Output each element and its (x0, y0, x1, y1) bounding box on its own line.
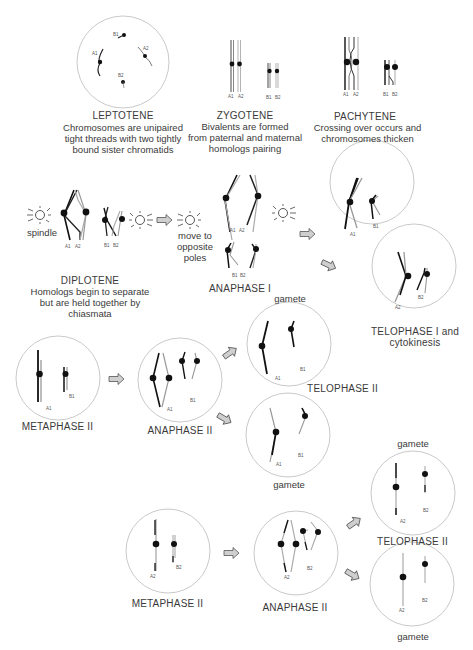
svg-text:A1: A1 (167, 407, 173, 412)
svg-text:A1: A1 (65, 244, 71, 249)
metaphase-2-top-cell: A1 B1 (16, 336, 100, 420)
svg-text:A1: A1 (343, 92, 349, 97)
telophase-2-bottom-title: TELOPHASE II (370, 536, 455, 548)
telophase-2-bottom-gamete-1: A2 B2 (371, 451, 455, 535)
gamete-label: gamete (265, 293, 315, 305)
arrow-icon (343, 566, 361, 583)
telophase-1-title-1: TELOPHASE I and (365, 326, 465, 338)
svg-text:B1: B1 (113, 32, 119, 37)
svg-text:B1: B1 (104, 243, 110, 248)
svg-text:A1: A1 (230, 228, 236, 233)
anaphase-2-top-title: ANAPHASE II (140, 425, 220, 437)
diplotene-title: DIPLOTENE (50, 275, 130, 287)
telophase-2-bottom-gamete-2: A2 B2 (370, 542, 454, 626)
arrow-icon (109, 374, 124, 385)
svg-text:A2: A2 (143, 46, 149, 51)
leptotene-title: LEPTOTENE (70, 110, 176, 122)
telophase-2-top-title: TELOPHASE II (300, 383, 385, 395)
svg-text:B1: B1 (69, 394, 75, 399)
telophase-1-title-2: cytokinesis (375, 337, 455, 349)
move-label-2: opposite (170, 241, 220, 253)
svg-text:A1: A1 (228, 94, 234, 99)
gamete-label: gamete (264, 479, 314, 491)
svg-text:B1: B1 (232, 273, 238, 278)
svg-text:A2: A2 (400, 519, 406, 524)
gamete-label: gamete (388, 631, 438, 643)
svg-text:A2: A2 (353, 92, 359, 97)
svg-text:B2: B2 (240, 273, 246, 278)
move-label-3: poles (175, 252, 215, 264)
svg-text:B2: B2 (418, 295, 424, 300)
zygotene-pairs: A1 A2 B1 B2 (228, 40, 281, 100)
svg-text:A2: A2 (75, 244, 81, 249)
telophase-1-cell-b: A2 B2 (372, 224, 456, 310)
telophase-2-top-gamete-1: A1 B1 (247, 302, 331, 386)
svg-text:A1: A1 (276, 462, 282, 467)
svg-text:B1: B1 (373, 224, 379, 229)
meiosis-diagram: A1 B1 A2 B2 A1 A2 B1 B2 A1 (0, 0, 473, 650)
svg-text:B1: B1 (300, 367, 306, 372)
svg-text:A1: A1 (350, 232, 356, 237)
anaphase-2-top-cell: A1 B1 (138, 338, 222, 422)
leptotene-cell: A1 B1 A2 B2 (77, 16, 169, 108)
metaphase-2-top-title: METAPHASE II (15, 421, 100, 433)
svg-text:A1: A1 (275, 376, 281, 381)
pachytene-title: PACHYTENE (325, 111, 405, 123)
svg-text:B2: B2 (307, 566, 313, 571)
pachytene-desc-2: chromosomes thicken (310, 133, 425, 145)
svg-text:B1: B1 (266, 95, 272, 100)
diplotene-pairs: A1 A2 B1 B2 (27, 190, 172, 249)
zygotene-desc-1: Bivalents are formed (180, 121, 310, 133)
diplotene-desc-1: Homologs begin to separate (20, 286, 160, 298)
svg-text:B2: B2 (113, 243, 119, 248)
svg-text:B1: B1 (298, 453, 304, 458)
svg-text:B2: B2 (422, 598, 428, 603)
svg-text:B2: B2 (118, 73, 124, 78)
arrow-icon (224, 548, 239, 559)
svg-text:A2: A2 (284, 575, 290, 580)
spindle-label: spindle (22, 227, 62, 239)
svg-text:A2: A2 (238, 94, 244, 99)
zygotene-title: ZYGOTENE (200, 110, 290, 122)
diplotene-desc-3: chiasmata (20, 308, 160, 320)
pachytene-pairs: A1 A2 B1 B2 (343, 37, 398, 97)
svg-text:A2: A2 (150, 574, 156, 579)
metaphase-2-bottom-title: METAPHASE II (125, 598, 210, 610)
svg-text:A2: A2 (239, 228, 245, 233)
gamete-label: gamete (388, 438, 438, 450)
svg-text:B2: B2 (423, 508, 429, 513)
diplotene-desc-2: but are held together by (20, 297, 160, 309)
svg-text:B1: B1 (190, 398, 196, 403)
metaphase-2-bottom-cell: A2 B2 (126, 509, 210, 593)
arrow-icon (345, 514, 364, 532)
zygotene-desc-2: from paternal and maternal (180, 132, 310, 144)
svg-text:A2: A2 (399, 608, 405, 613)
svg-text:A1: A1 (46, 406, 52, 411)
anaphase-2-bottom-cell: A2 B2 (254, 511, 338, 595)
svg-text:B2: B2 (392, 92, 398, 97)
svg-text:B1: B1 (383, 92, 389, 97)
leptotene-desc-2: tight threads with two tightly (44, 133, 202, 145)
pachytene-desc-1: Crossing over occurs and (310, 122, 425, 134)
telophase-2-top-gamete-2: A1 B1 (246, 393, 330, 477)
leptotene-desc-3: bound sister chromatids (44, 144, 202, 156)
arrow-icon (221, 344, 240, 362)
svg-text:B2: B2 (176, 565, 182, 570)
anaphase-2-bottom-title: ANAPHASE II (255, 602, 335, 614)
zygotene-desc-3: homologs pairing (180, 143, 310, 155)
svg-text:A2: A2 (395, 305, 401, 310)
svg-text:B2: B2 (275, 95, 281, 100)
telophase-1-cell-a: A1 B1 (330, 140, 414, 237)
svg-text:A1: A1 (92, 51, 98, 56)
leptotene-desc-1: Chromosomes are unipaired (44, 122, 202, 134)
move-label-1: move to (175, 230, 215, 242)
